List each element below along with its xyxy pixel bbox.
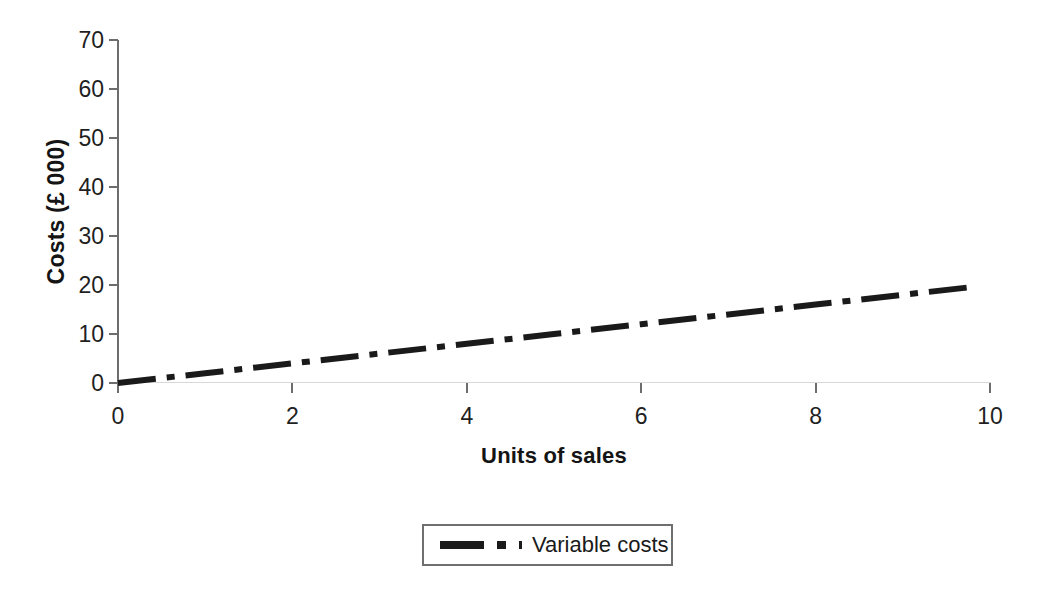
legend-label: Variable costs (532, 532, 669, 558)
y-tick-label: 0 (91, 372, 104, 395)
y-tick-mark (109, 284, 118, 286)
y-tick-label: 30 (78, 225, 104, 248)
plot-area: 010203040506070 0246810 (118, 40, 990, 383)
y-tick-label: 50 (78, 127, 104, 150)
legend-entry-variable-costs: Variable costs (424, 532, 669, 558)
x-tick-mark (291, 383, 293, 393)
x-tick-mark (640, 383, 642, 393)
series-line-variable-costs (118, 287, 973, 383)
y-tick-label: 40 (78, 176, 104, 199)
y-tick-label: 10 (78, 323, 104, 346)
legend: Variable costs (422, 524, 673, 566)
y-tick-mark (109, 235, 118, 237)
x-tick-label: 6 (635, 405, 648, 428)
y-tick-mark (109, 39, 118, 41)
x-tick-mark (466, 383, 468, 393)
chart-figure: Costs (£ 000) Units of sales 01020304050… (0, 0, 1045, 600)
x-axis-title: Units of sales (118, 443, 990, 469)
y-tick-mark (109, 333, 118, 335)
y-tick-mark (109, 88, 118, 90)
x-tick-label: 10 (977, 405, 1003, 428)
y-tick-mark (109, 137, 118, 139)
y-axis-title: Costs (£ 000) (36, 40, 76, 383)
x-tick-label: 2 (286, 405, 299, 428)
x-tick-label: 0 (112, 405, 125, 428)
x-tick-mark (989, 383, 991, 393)
y-tick-label: 70 (78, 29, 104, 52)
x-tick-label: 8 (809, 405, 822, 428)
y-tick-label: 60 (78, 78, 104, 101)
y-tick-mark (109, 186, 118, 188)
y-tick-label: 20 (78, 274, 104, 297)
series-layer (118, 40, 990, 383)
x-tick-mark (815, 383, 817, 393)
x-tick-label: 4 (460, 405, 473, 428)
legend-line-sample (440, 538, 522, 552)
